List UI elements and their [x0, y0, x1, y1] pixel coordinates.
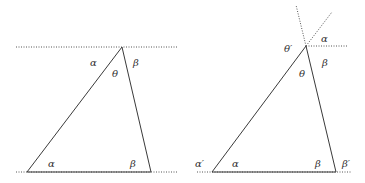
left-side-extension — [306, 12, 332, 46]
label-beta-prime: β′ — [341, 158, 351, 169]
label-beta-top: β — [132, 57, 139, 68]
label-theta: θ — [299, 68, 305, 79]
label-alpha-bottom: α — [232, 158, 239, 169]
left-panel: α θ β α β — [16, 47, 178, 172]
label-theta-prime: θ′ — [284, 43, 293, 54]
right-side-extension — [296, 5, 306, 46]
triangle-angle-diagram: α θ β α β θ′ α β θ α′ α β β′ — [0, 0, 365, 183]
triangle-left-side — [212, 46, 306, 172]
label-alpha-prime: α′ — [195, 158, 205, 169]
label-beta-bottom: β — [314, 158, 321, 169]
label-alpha-top: α — [321, 33, 328, 44]
right-panel: θ′ α β θ α′ α β β′ — [195, 5, 352, 172]
label-theta: θ — [112, 68, 118, 79]
triangle-left-side — [27, 47, 122, 172]
triangle-right-side — [306, 46, 336, 172]
label-alpha-top: α — [90, 57, 97, 68]
label-beta-top: β — [321, 57, 328, 68]
label-alpha-bottom: α — [48, 158, 55, 169]
label-beta-bottom: β — [129, 158, 136, 169]
